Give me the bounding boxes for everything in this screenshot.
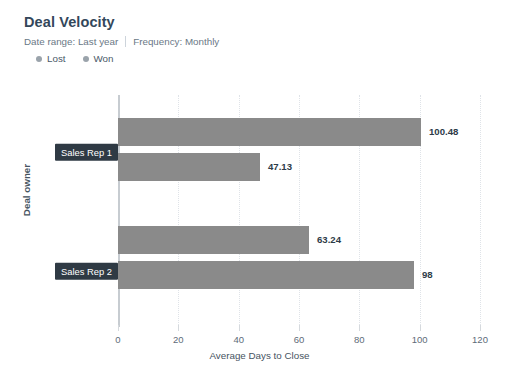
x-tick-label: 40 [233,334,244,345]
chart-legend: Lost Won [36,53,494,64]
page-title: Deal Velocity [24,14,494,31]
meta-divider [125,36,126,47]
frequency-label: Frequency: Monthly [133,36,219,47]
legend-label-lost: Lost [47,53,66,64]
bar-value-label: 98 [422,270,433,280]
plot-area: 100.48 47.13 63.24 98 [118,95,480,325]
x-tick-label: 20 [173,334,184,345]
legend-label-won: Won [94,53,114,64]
x-tick-mark [480,325,481,331]
chart-header: Deal Velocity Date range: Last year Freq… [24,14,494,64]
bar-sales-rep-1-lost[interactable] [118,118,421,146]
deal-velocity-chart-card: Deal Velocity Date range: Last year Freq… [0,0,519,373]
legend-item-lost[interactable]: Lost [36,53,66,64]
gridline [420,95,422,325]
gridline [178,95,180,325]
gridline [480,95,482,325]
x-tick-mark [239,325,240,331]
bar-value-label: 100.48 [429,127,458,137]
x-axis-title: Average Days to Close [0,350,519,361]
legend-dot-icon [83,56,89,62]
gridline [239,95,241,325]
bar-sales-rep-2-won[interactable] [118,261,414,289]
gridline [299,95,301,325]
gridline [359,95,361,325]
bar-value-label: 63.24 [317,235,341,245]
bar-sales-rep-2-lost[interactable] [118,226,309,254]
x-tick-label: 60 [294,334,305,345]
x-tick-mark [118,325,119,331]
chart-meta-row: Date range: Last year Frequency: Monthly [24,36,494,47]
date-range-label: Date range: Last year [24,36,118,47]
x-tick-mark [420,325,421,331]
category-label-sales-rep-1[interactable]: Sales Rep 1 [55,144,118,161]
y-axis-line [118,95,120,327]
y-axis-title: Deal owner [21,164,32,216]
x-tick-mark [299,325,300,331]
bar-sales-rep-1-won[interactable] [118,153,260,181]
x-tick-mark [359,325,360,331]
x-tick-mark [178,325,179,331]
x-tick-label: 100 [412,334,428,345]
legend-item-won[interactable]: Won [83,53,114,64]
x-tick-label: 0 [115,334,120,345]
x-tick-label: 80 [354,334,365,345]
x-tick-label: 120 [472,334,488,345]
category-label-sales-rep-2[interactable]: Sales Rep 2 [55,263,118,280]
bar-value-label: 47.13 [268,162,292,172]
legend-dot-icon [36,56,42,62]
